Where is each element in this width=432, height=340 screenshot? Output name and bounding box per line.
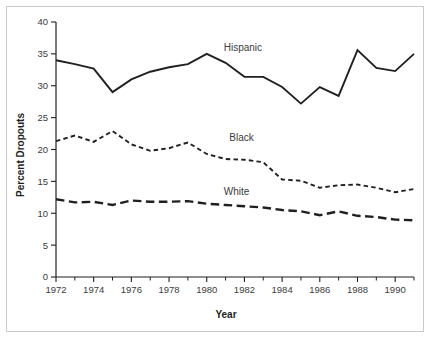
x-axis-title: Year	[215, 309, 236, 320]
y-axis-tick-label: 30	[37, 80, 48, 91]
y-axis-title: Percent Dropouts	[15, 113, 26, 197]
chart-plot-area: 0510152025303540 19721974197619781980198…	[0, 0, 432, 340]
y-axis-tick-label: 40	[37, 16, 48, 27]
x-axis-tick-label: 1990	[385, 284, 406, 295]
y-axis-tick-label: 15	[37, 176, 48, 187]
x-axis-tick-label: 1978	[158, 284, 179, 295]
x-axis-tick-label: 1984	[272, 284, 293, 295]
x-axis-tick-label: 1988	[347, 284, 368, 295]
x-axis: 1972197419761978198019821984198619881990	[45, 277, 414, 295]
series-line-hispanic	[56, 50, 414, 104]
y-axis-tick-label: 10	[37, 208, 48, 219]
y-axis: 0510152025303540	[37, 16, 56, 282]
x-axis-tick-label: 1972	[45, 284, 66, 295]
figure-container: 0510152025303540 19721974197619781980198…	[0, 0, 432, 340]
y-axis-tick-label: 25	[37, 112, 48, 123]
y-axis-tick-label: 5	[43, 240, 48, 251]
series-label-black: Black	[229, 132, 254, 143]
y-axis-tick-label: 20	[37, 144, 48, 155]
x-axis-tick-label: 1980	[196, 284, 217, 295]
series-label-hispanic: Hispanic	[224, 42, 262, 53]
x-axis-tick-label: 1976	[121, 284, 142, 295]
x-axis-tick-label: 1986	[309, 284, 330, 295]
y-axis-tick-label: 0	[43, 271, 48, 282]
series-label-white: White	[224, 186, 250, 197]
x-axis-tick-label: 1982	[234, 284, 255, 295]
x-axis-tick-label: 1974	[83, 284, 104, 295]
y-axis-tick-label: 35	[37, 48, 48, 59]
line-chart: 0510152025303540 19721974197619781980198…	[0, 0, 432, 340]
series-line-white	[56, 199, 414, 220]
